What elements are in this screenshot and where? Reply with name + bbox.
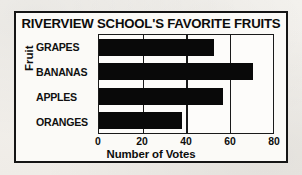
bar-row-apples	[99, 88, 273, 105]
x-tick-40: 40	[180, 136, 192, 147]
bar-row-grapes	[99, 39, 273, 56]
x-axis-title: Number of Votes	[16, 148, 286, 160]
category-label-apples: APPLES	[36, 84, 98, 109]
bar-row-oranges	[99, 112, 273, 129]
chart-title: RIVERVIEW SCHOOL'S FAVORITE FRUITS	[16, 16, 286, 31]
x-tick-80: 80	[268, 136, 280, 147]
bar-apples	[99, 88, 223, 105]
bar-series	[99, 35, 273, 133]
y-axis-title: Fruit	[23, 45, 35, 71]
bar-oranges	[99, 112, 182, 129]
category-label-bananas: BANANAS	[36, 59, 98, 84]
bar-grapes	[99, 39, 214, 56]
x-tick-20: 20	[136, 136, 148, 147]
bar-bananas	[99, 63, 253, 80]
x-tick-60: 60	[224, 136, 236, 147]
category-label-list: GRAPES BANANAS APPLES ORANGES	[36, 34, 98, 134]
plot-area	[98, 34, 274, 134]
x-tick-0: 0	[95, 136, 101, 147]
bar-row-bananas	[99, 63, 273, 80]
worksheet-page: RIVERVIEW SCHOOL'S FAVORITE FRUITS Fruit…	[0, 0, 302, 175]
category-label-oranges: ORANGES	[36, 109, 98, 134]
chart-frame: RIVERVIEW SCHOOL'S FAVORITE FRUITS Fruit…	[14, 11, 288, 163]
category-label-grapes: GRAPES	[36, 34, 98, 59]
